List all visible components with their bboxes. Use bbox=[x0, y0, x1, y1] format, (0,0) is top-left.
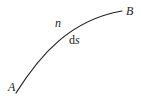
ds-s: s bbox=[75, 33, 80, 47]
n-label: n bbox=[55, 17, 61, 29]
curve-svg bbox=[0, 0, 141, 102]
point-a-label: A bbox=[8, 81, 15, 93]
curve-diagram: A B n ds bbox=[0, 0, 141, 102]
ds-label: ds bbox=[69, 34, 80, 46]
curve-path bbox=[16, 11, 122, 93]
point-b-label: B bbox=[126, 5, 133, 17]
